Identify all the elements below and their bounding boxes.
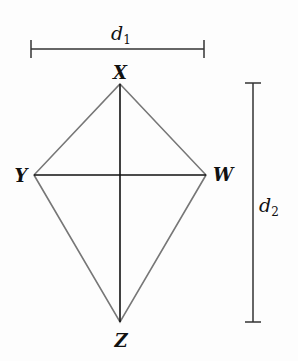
d2-label: d2	[259, 194, 279, 219]
kite-diagram: d1 d2 X Y W Z	[0, 0, 298, 361]
vertex-label-y: Y	[15, 165, 30, 186]
d1-label: d1	[111, 22, 131, 47]
vertex-label-z: Z	[113, 330, 128, 351]
kite-diagram-svg: d1 d2 X Y W Z	[0, 0, 298, 361]
vertex-label-x: X	[112, 62, 128, 83]
vertex-label-w: W	[213, 164, 235, 185]
